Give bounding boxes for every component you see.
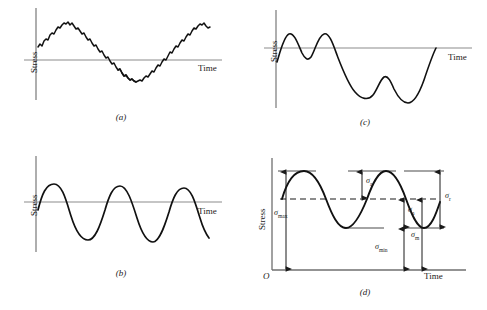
panel-b-stress-curve <box>38 184 209 242</box>
panel-b-plot <box>0 150 244 310</box>
panel-d-sigma-min-label: σmin <box>375 242 388 253</box>
panel-c: Stress Time (c) <box>244 0 487 140</box>
panel-d: σa σa σmax σmin σr σm Stress O Time (d) <box>244 150 487 310</box>
panel-a: Stress Time (a) <box>0 0 244 140</box>
panel-d-caption: (d) <box>349 287 381 297</box>
panel-b-y-axis-label: Stress <box>29 194 39 216</box>
panel-b-caption: (b) <box>105 268 137 278</box>
panel-b-x-axis-label: Time <box>198 206 217 216</box>
panel-d-plot <box>244 150 487 310</box>
panel-c-y-axis-label: Stress <box>269 40 279 62</box>
fatigue-stress-figure: Stress Time (a) Stress Time (c) Stress T… <box>0 0 487 310</box>
panel-c-x-axis-label: Time <box>448 52 467 62</box>
panel-d-origin-label: O <box>263 271 270 281</box>
panel-d-x-axis-label: Time <box>424 271 443 281</box>
panel-c-caption: (c) <box>349 117 381 127</box>
panel-a-y-axis-label: Stress <box>29 51 39 73</box>
panel-d-sigma-r-label: σr <box>445 191 451 202</box>
panel-c-stress-curve <box>277 34 436 103</box>
panel-a-stress-curve <box>38 22 210 82</box>
panel-a-x-axis-label: Time <box>198 63 217 73</box>
panel-d-sigma-max-label: σmax <box>274 208 287 219</box>
panel-d-sigma-a-lower-label: σa <box>408 205 414 216</box>
panel-d-y-axis-label: Stress <box>257 208 267 230</box>
panel-d-sigma-a-upper-label: σa <box>366 176 372 187</box>
panel-a-caption: (a) <box>105 112 137 122</box>
panel-b: Stress Time (b) <box>0 150 244 310</box>
panel-d-sigma-m-label: σm <box>411 230 419 241</box>
panel-a-stress-curve-tail <box>118 69 136 82</box>
